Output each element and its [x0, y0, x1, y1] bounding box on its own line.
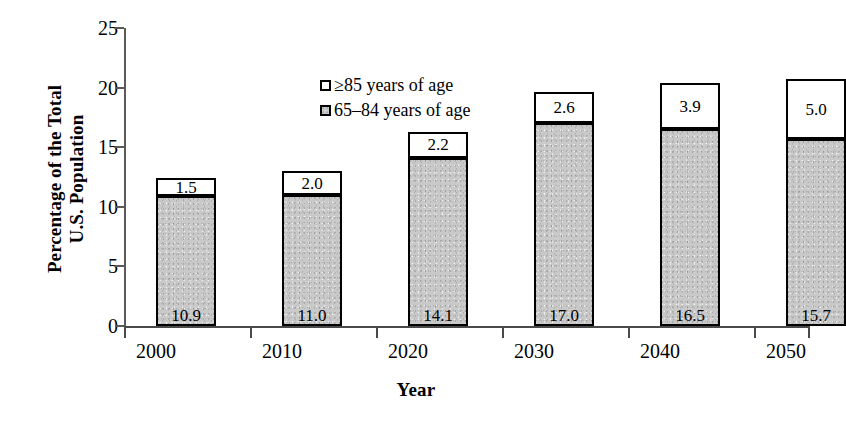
bar-segment-upper-2030[interactable]: 2.6 — [534, 92, 594, 123]
legend-item-85-plus[interactable]: ≥85 years of age — [320, 76, 470, 94]
x-tick-mark-3 — [502, 328, 504, 338]
bar-value-lower-2000: 10.9 — [171, 307, 201, 324]
y-tick-mark-5 — [115, 265, 124, 267]
y-tick-label-5: 5 — [82, 256, 118, 276]
x-tick-label-2020: 2020 — [363, 341, 453, 361]
y-tick-label-20: 20 — [82, 78, 118, 98]
bar-segment-upper-2040[interactable]: 3.9 — [660, 83, 720, 130]
bar-segment-upper-2050[interactable]: 5.0 — [786, 79, 846, 139]
bar-value-upper-2000: 1.5 — [175, 179, 196, 196]
bar-value-upper-2050: 5.0 — [805, 101, 826, 118]
bar-segment-upper-2010[interactable]: 2.0 — [282, 171, 342, 195]
y-tick-mark-0 — [115, 325, 124, 327]
y-tick-label-15: 15 — [82, 137, 118, 157]
x-tick-mark-1 — [250, 328, 252, 338]
bar-value-upper-2010: 2.0 — [301, 175, 322, 192]
y-axis-line — [124, 28, 126, 327]
x-tick-mark-4 — [628, 328, 630, 338]
x-tick-mark-5 — [754, 328, 756, 338]
bar-value-upper-2020: 2.2 — [427, 136, 448, 153]
y-tick-label-10: 10 — [82, 197, 118, 217]
y-tick-mark-10 — [115, 206, 124, 208]
bar-value-lower-2030: 17.0 — [549, 307, 579, 324]
bar-segment-lower-2030[interactable]: 17.0 — [534, 123, 594, 326]
x-tick-mark-6 — [808, 328, 810, 338]
legend-swatch-gray-icon — [320, 105, 331, 116]
bar-value-lower-2050: 15.7 — [801, 307, 831, 324]
x-tick-label-2040: 2040 — [615, 341, 705, 361]
legend-swatch-white-icon — [320, 80, 331, 91]
y-axis-title-line-1: Percentage of the Total — [44, 85, 66, 273]
y-tick-mark-25 — [115, 27, 124, 29]
legend-label-85-plus: ≥85 years of age — [334, 76, 453, 94]
y-tick-mark-20 — [115, 87, 124, 89]
x-tick-mark-0 — [124, 328, 126, 338]
bar-value-lower-2020: 14.1 — [423, 307, 453, 324]
y-tick-label-0: 0 — [82, 316, 118, 336]
bar-value-lower-2010: 11.0 — [297, 307, 326, 324]
x-axis-line — [124, 326, 810, 328]
bar-segment-lower-2000[interactable]: 10.9 — [156, 196, 216, 326]
bar-value-upper-2040: 3.9 — [679, 98, 700, 115]
x-tick-label-2050: 2050 — [741, 341, 831, 361]
bar-group-2050[interactable]: 5.0 15.7 — [786, 79, 846, 326]
bar-segment-lower-2050[interactable]: 15.7 — [786, 139, 846, 326]
y-tick-label-25: 25 — [82, 18, 118, 38]
bar-group-2010[interactable]: 2.0 11.0 — [282, 171, 342, 326]
bar-segment-lower-2040[interactable]: 16.5 — [660, 129, 720, 326]
bar-group-2030[interactable]: 2.6 17.0 — [534, 92, 594, 326]
x-tick-label-2010: 2010 — [237, 341, 327, 361]
bar-segment-lower-2010[interactable]: 11.0 — [282, 195, 342, 326]
plot-area: 1.5 10.9 2.0 11.0 2.2 14.1 — [124, 28, 810, 326]
chart-legend: ≥85 years of age 65–84 years of age — [320, 76, 470, 119]
bar-group-2040[interactable]: 3.9 16.5 — [660, 83, 720, 326]
bar-segment-upper-2020[interactable]: 2.2 — [408, 132, 468, 158]
bar-value-lower-2040: 16.5 — [675, 307, 705, 324]
bar-segment-upper-2000[interactable]: 1.5 — [156, 178, 216, 196]
bar-value-upper-2030: 2.6 — [553, 99, 574, 116]
x-tick-label-2000: 2000 — [111, 341, 201, 361]
x-tick-mark-2 — [376, 328, 378, 338]
legend-item-65-84[interactable]: 65–84 years of age — [320, 101, 470, 119]
x-tick-label-2030: 2030 — [489, 341, 579, 361]
legend-label-65-84: 65–84 years of age — [334, 101, 470, 119]
bar-segment-lower-2020[interactable]: 14.1 — [408, 158, 468, 326]
y-tick-mark-15 — [115, 146, 124, 148]
bar-group-2020[interactable]: 2.2 14.1 — [408, 132, 468, 326]
bar-group-2000[interactable]: 1.5 10.9 — [156, 178, 216, 326]
x-axis-title: Year — [0, 379, 832, 401]
